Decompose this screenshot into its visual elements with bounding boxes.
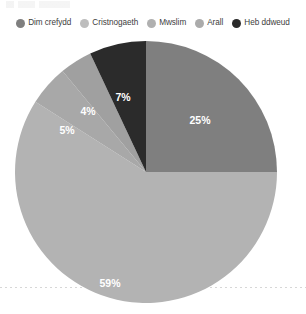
legend-swatch-icon — [232, 19, 241, 28]
chart-legend: Dim crefydd Cristnogaeth Mwslim Arall He… — [0, 15, 306, 31]
legend-swatch-icon — [195, 19, 204, 28]
clipped-header-artifact — [6, 1, 70, 8]
legend-item-label: Heb ddweud — [244, 19, 289, 27]
legend-swatch-icon — [147, 19, 156, 28]
pie-chart: 25%59%5%4%7% — [0, 30, 306, 314]
legend-item-dim-crefydd[interactable]: Dim crefydd — [16, 19, 71, 28]
pie-slice[interactable] — [146, 41, 277, 172]
legend-item-label: Cristnogaeth — [92, 19, 138, 27]
legend-item-label: Dim crefydd — [28, 19, 71, 27]
legend-item-cristnogaeth[interactable]: Cristnogaeth — [80, 19, 138, 28]
legend-item-label: Arall — [207, 19, 223, 27]
legend-item-label: Mwslim — [159, 19, 186, 27]
legend-item-arall[interactable]: Arall — [195, 19, 223, 28]
pie-slice-group — [15, 41, 277, 303]
legend-swatch-icon — [16, 19, 25, 28]
pie-svg — [15, 41, 277, 303]
legend-swatch-icon — [80, 19, 89, 28]
legend-item-heb-ddweud[interactable]: Heb ddweud — [232, 19, 289, 28]
legend-item-mwslim[interactable]: Mwslim — [147, 19, 186, 28]
